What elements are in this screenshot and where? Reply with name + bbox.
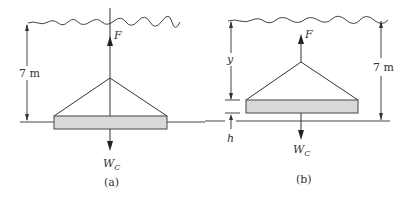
weight-label: WC (293, 143, 310, 158)
dimension-label-7m: 7 m (19, 67, 40, 80)
weight-arrow-icon (298, 130, 304, 140)
dimension-label-7m: 7 m (373, 61, 394, 74)
panel-caption-a: (a) (104, 176, 119, 189)
sling-triangle (246, 62, 358, 100)
dimension-arrow-up-icon (229, 114, 233, 120)
weight-arrow-icon (107, 141, 113, 151)
force-up-arrow-icon (107, 36, 113, 46)
force-up-label: F (113, 29, 122, 42)
force-up-arrow-icon (298, 34, 304, 44)
dimension-arrow-up-icon (229, 21, 233, 28)
water-surface-line (228, 16, 388, 23)
concrete-slab (246, 100, 358, 113)
dimension-label-h: h (227, 132, 234, 145)
water-surface-line (28, 16, 180, 27)
panel-a: F WC 7 m (a) (19, 8, 205, 189)
dimension-arrow-down-icon (25, 114, 29, 121)
panel-b: F WC y h 7 m (b) (205, 16, 394, 186)
force-up-label: F (304, 28, 313, 41)
weight-label: WC (103, 157, 120, 172)
dimension-label-y: y (226, 53, 234, 66)
dimension-arrow-down-icon (379, 113, 383, 120)
panel-caption-b: (b) (296, 173, 312, 186)
dimension-arrow-up-icon (379, 21, 383, 28)
concrete-slab (54, 116, 167, 129)
figure: F WC 7 m (a) F WC (0, 0, 410, 197)
dimension-arrow-down-icon (229, 93, 233, 100)
dimension-arrow-up-icon (25, 24, 29, 31)
